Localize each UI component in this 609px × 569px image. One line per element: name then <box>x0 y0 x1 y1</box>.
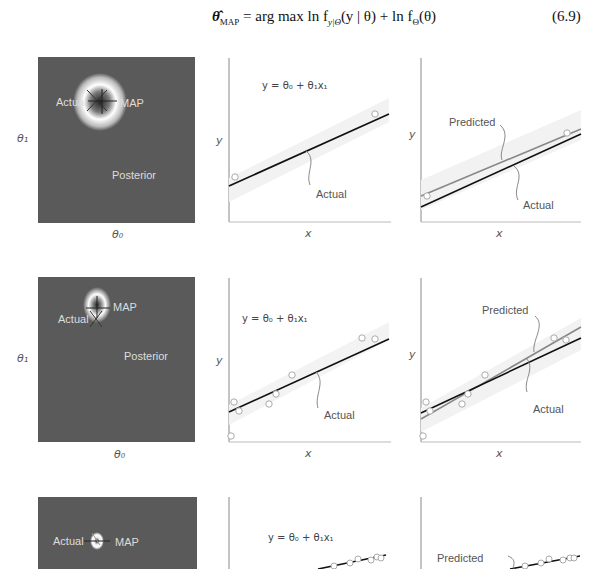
posterior-panel-3 <box>38 497 197 569</box>
map-label: MAP <box>115 536 139 548</box>
model-formula: y = θ₀ + θ₁x₁ <box>242 313 308 324</box>
y-axis-label: y <box>216 134 223 147</box>
theta0-axis-label: θ₀ <box>112 228 123 241</box>
prediction-plot-1 <box>421 58 581 222</box>
actual-label: Actual <box>58 313 89 325</box>
x-axis-label: x <box>496 227 503 240</box>
x-axis-label: x <box>305 447 312 460</box>
actual-line-label: Actual <box>523 199 554 211</box>
prediction-plot-2 <box>420 278 581 442</box>
actual-label: Actual <box>53 535 84 547</box>
posterior-panel-1 <box>38 57 195 223</box>
actual-label: Actual <box>56 96 87 108</box>
actual-line-label: Actual <box>324 409 355 421</box>
actual-line-label: Actual <box>316 188 347 200</box>
model-formula: y = θ₀ + θ₁x₁ <box>262 80 328 91</box>
theta1-axis-label: θ₁ <box>17 132 28 145</box>
y-axis-label: y <box>409 348 416 361</box>
theta1-axis-label: θ₁ <box>17 352 28 365</box>
predicted-line-label: Predicted <box>437 552 483 564</box>
model-plot-2 <box>228 278 391 442</box>
map-label: MAP <box>113 301 137 313</box>
predicted-line-label: Predicted <box>449 116 495 128</box>
y-axis-label: y <box>216 354 223 367</box>
posterior-label: Posterior <box>124 350 168 362</box>
theta0-axis-label: θ₀ <box>114 448 125 461</box>
predicted-line-label: Predicted <box>482 304 528 316</box>
actual-line-label: Actual <box>533 403 564 415</box>
map-label: MAP <box>120 97 144 109</box>
y-axis-label: y <box>409 128 416 141</box>
x-axis-label: x <box>305 227 312 240</box>
posterior-label: Posterior <box>112 169 156 181</box>
model-formula: y = θ₀ + θ₁x₁ <box>268 532 334 543</box>
x-axis-label: x <box>496 447 503 460</box>
